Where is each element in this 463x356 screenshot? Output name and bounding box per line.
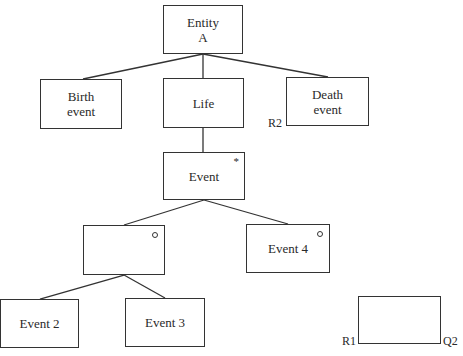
selection-circle-icon (152, 232, 158, 238)
iteration-asterisk-icon: * (234, 156, 240, 167)
r2-label: R2 (268, 117, 282, 129)
r1-label: R1 (342, 335, 356, 347)
event-2-label: Event 2 (19, 316, 59, 331)
event-3-box: Event 3 (125, 298, 205, 347)
entity-a-line2: A (198, 30, 207, 45)
death-event-line1: Death (312, 87, 343, 102)
event-iteration-box: Event * (163, 152, 245, 200)
death-event-line2: event (313, 102, 341, 117)
entity-a-box: Entity A (163, 5, 243, 54)
q2-label: Q2 (443, 335, 458, 347)
death-event-box: Death event (286, 77, 369, 126)
selection-circle-icon (317, 231, 323, 237)
event-label: Event (189, 169, 219, 184)
event-3-label: Event 3 (145, 315, 185, 330)
unnamed-selection-box (83, 225, 165, 275)
event-4-label: Event 4 (268, 241, 308, 256)
event-4-box: Event 4 (246, 224, 330, 273)
legend-box (358, 296, 441, 344)
life-label: Life (193, 96, 215, 111)
birth-event-box: Birth event (40, 79, 122, 129)
birth-event-line1: Birth (68, 89, 95, 104)
event-2-box: Event 2 (0, 299, 79, 348)
entity-a-line1: Entity (187, 15, 219, 30)
life-box: Life (163, 78, 244, 128)
birth-event-line2: event (67, 104, 95, 119)
